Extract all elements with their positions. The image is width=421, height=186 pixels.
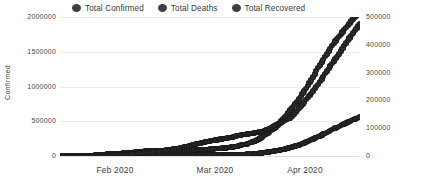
- data-point-marker: [357, 114, 360, 119]
- chart-legend: Total Confirmed Total Deaths Total Recov…: [72, 1, 382, 15]
- plot-area: [60, 17, 360, 156]
- right-axis-tick-label: 300000: [366, 69, 391, 76]
- legend-item-total-confirmed[interactable]: Total Confirmed: [72, 4, 144, 13]
- left-axis-tick-label: 2000000: [27, 13, 56, 20]
- left-axis-tick-label: 0: [52, 152, 56, 159]
- legend-label: Total Confirmed: [85, 4, 144, 13]
- right-axis-tick-label: 400000: [366, 41, 391, 48]
- series-layer: [60, 17, 360, 156]
- x-axis-tick-label: Apr 2020: [275, 165, 335, 175]
- chart-screenshot: Total Confirmed Total Deaths Total Recov…: [0, 0, 421, 186]
- circle-marker-icon: [72, 4, 81, 12]
- legend-item-total-recovered[interactable]: Total Recovered: [232, 4, 306, 13]
- left-axis-tick-label: 1500000: [27, 48, 56, 55]
- data-point-marker: [357, 21, 360, 26]
- right-axis-tick-label: 0: [366, 152, 370, 159]
- left-axis-title: Confirmed: [3, 55, 12, 111]
- legend-item-total-deaths[interactable]: Total Deaths: [158, 4, 218, 13]
- right-axis-tick-label: 200000: [366, 96, 391, 103]
- circle-marker-icon: [232, 4, 241, 12]
- left-axis-tick-label: 1000000: [27, 83, 56, 90]
- x-axis-tick-label: Mar 2020: [185, 165, 245, 175]
- right-axis-tick-label: 100000: [366, 124, 391, 131]
- legend-label: Total Recovered: [245, 4, 306, 13]
- right-axis-tick-label: 500000: [366, 13, 391, 20]
- circle-marker-icon: [158, 4, 167, 12]
- x-axis-tick-label: Feb 2020: [85, 165, 145, 175]
- legend-label: Total Deaths: [171, 4, 218, 13]
- left-axis-tick-label: 500000: [31, 117, 56, 124]
- gridline: [60, 156, 360, 157]
